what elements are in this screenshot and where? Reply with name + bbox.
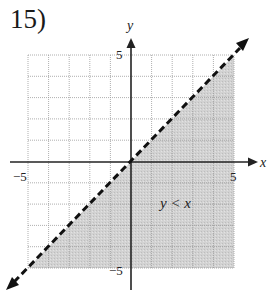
x-axis-arrow-icon [248, 158, 258, 167]
inequality-graph: y x 5 −5 5 −5 y < x [0, 0, 273, 294]
x-min-label: −5 [13, 169, 27, 184]
y-axis-label: y [125, 18, 134, 33]
y-min-label: −5 [109, 263, 123, 278]
x-max-label: 5 [230, 169, 237, 184]
x-axis-label: x [259, 155, 267, 170]
inequality-label: y < x [158, 195, 191, 211]
y-max-label: 5 [116, 47, 123, 62]
y-axis-arrow-icon [127, 38, 136, 48]
